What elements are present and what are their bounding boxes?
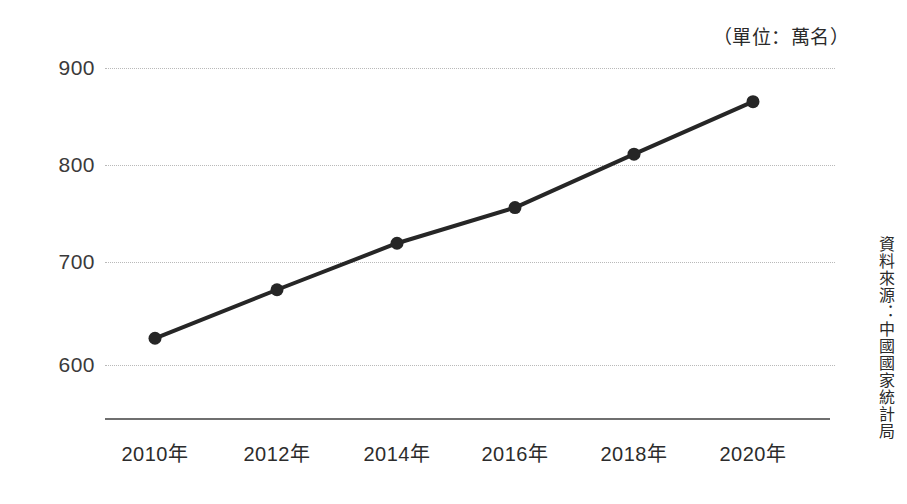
x-axis-label-2018年: 2018年: [601, 438, 668, 467]
line-chart: （單位：萬名） 資料來源：中國國家統計局 9008007006002010年20…: [0, 0, 907, 504]
x-axis-line: [105, 418, 830, 420]
x-axis-label-2016年: 2016年: [482, 438, 549, 467]
x-axis-label-2010年: 2010年: [122, 438, 189, 467]
plot-area: 9008007006002010年2012年2014年2016年2018年202…: [0, 0, 907, 504]
y-axis-label-600: 600: [39, 353, 95, 377]
y-axis-label-900: 900: [39, 56, 95, 80]
gridline-900: [105, 68, 835, 69]
gridline-800: [105, 165, 835, 166]
y-axis-label-700: 700: [39, 250, 95, 274]
y-axis-label-800: 800: [39, 153, 95, 177]
x-axis-label-2012年: 2012年: [244, 438, 311, 467]
gridline-600: [105, 365, 835, 366]
x-axis-label-2014年: 2014年: [364, 438, 431, 467]
gridline-700: [105, 262, 835, 263]
x-axis-label-2020年: 2020年: [720, 438, 787, 467]
